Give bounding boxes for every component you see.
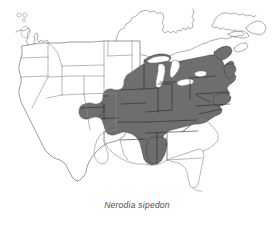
st-lawrence-outline [206, 26, 244, 43]
quebec-labrador-outline [212, 13, 256, 26]
range-map-figure: Nerodia sipedon [0, 0, 274, 225]
border-tx-la [120, 140, 128, 160]
florida-outline [167, 149, 204, 188]
map-canvas [0, 0, 274, 196]
florida-keys [193, 188, 202, 191]
island-dot-2 [23, 13, 27, 17]
island-dot-1 [17, 13, 21, 17]
figure-caption: Nerodia sipedon [0, 200, 274, 210]
range-polygon-gulf-lobe [146, 137, 167, 164]
nova-scotia [234, 43, 248, 52]
newfoundland-island [246, 21, 266, 35]
island-dot-3 [22, 18, 25, 21]
northwest-islands-group [17, 13, 30, 38]
border-ga-fl [167, 158, 202, 160]
hudson-bay-outline [140, 9, 194, 33]
north-america-map [0, 0, 274, 196]
newfoundland-group [212, 13, 266, 52]
